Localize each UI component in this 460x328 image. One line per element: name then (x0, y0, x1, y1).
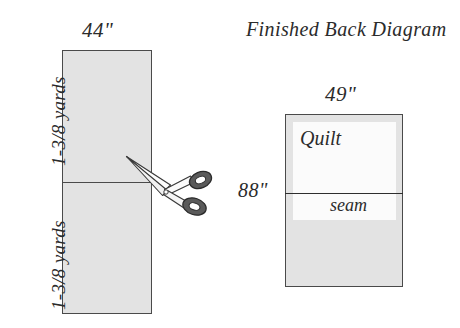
back-height-label: 88" (238, 180, 268, 200)
fabric-width-label: 44" (82, 20, 113, 41)
quilt-label: Quilt (300, 128, 341, 148)
finished-back-diagram-title: Finished Back Diagram (246, 19, 447, 39)
back-width-label: 49" (325, 84, 356, 105)
fabric-yards-label-bottom: 1-3/8 yards (48, 220, 70, 310)
back-seam-line (285, 193, 403, 194)
scissors-icon (118, 148, 214, 226)
fabric-yards-label-top: 1-3/8 yards (48, 76, 70, 166)
seam-label: seam (330, 196, 367, 214)
quilt-backing-diagram: 44" 1-3/8 yards 1-3/8 yards Finis (0, 0, 460, 328)
